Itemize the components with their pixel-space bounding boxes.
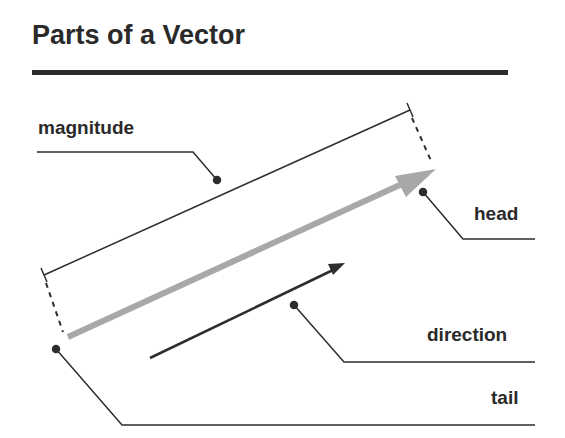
label-magnitude: magnitude bbox=[38, 117, 134, 139]
label-head: head bbox=[474, 203, 518, 225]
tail-leader bbox=[53, 346, 536, 426]
vector-arrow bbox=[68, 169, 436, 337]
magnitude-leader bbox=[37, 152, 221, 184]
label-direction: direction bbox=[427, 324, 507, 346]
direction-arrow bbox=[150, 263, 345, 358]
label-tail: tail bbox=[491, 387, 518, 409]
